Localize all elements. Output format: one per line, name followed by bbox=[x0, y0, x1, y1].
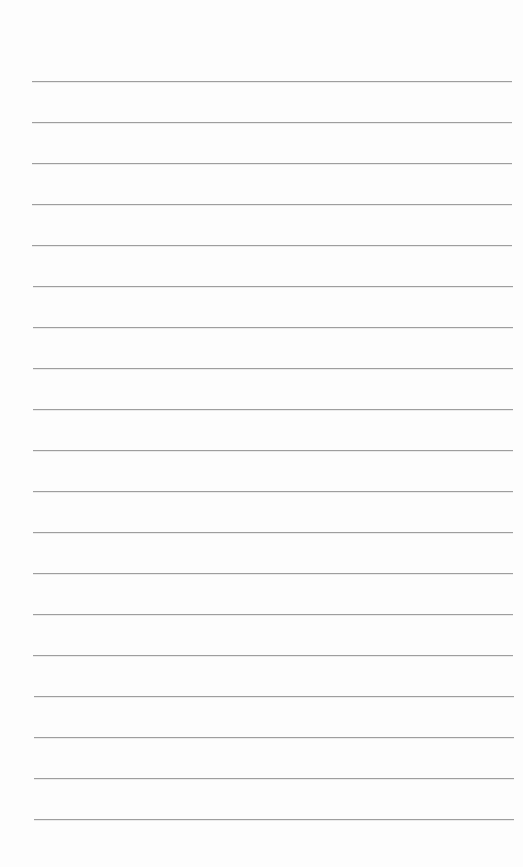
ruled-line bbox=[33, 450, 513, 451]
ruled-line bbox=[32, 204, 512, 205]
ruled-line bbox=[33, 286, 513, 287]
ruled-line bbox=[32, 245, 512, 246]
ruled-line bbox=[33, 327, 513, 328]
ruled-line bbox=[32, 81, 512, 82]
ruled-line bbox=[32, 163, 512, 164]
ruled-line bbox=[33, 368, 513, 369]
ruled-line bbox=[34, 819, 514, 820]
ruled-line bbox=[33, 491, 513, 492]
ruled-line bbox=[34, 778, 514, 779]
ruled-line bbox=[33, 532, 513, 533]
ruled-line bbox=[34, 737, 514, 738]
ruled-line bbox=[33, 409, 513, 410]
ruled-line bbox=[32, 122, 512, 123]
ruled-line bbox=[33, 655, 513, 656]
ruled-line bbox=[34, 696, 514, 697]
ruled-line bbox=[33, 614, 513, 615]
ruled-line bbox=[33, 573, 513, 574]
lined-paper-page bbox=[0, 0, 523, 867]
